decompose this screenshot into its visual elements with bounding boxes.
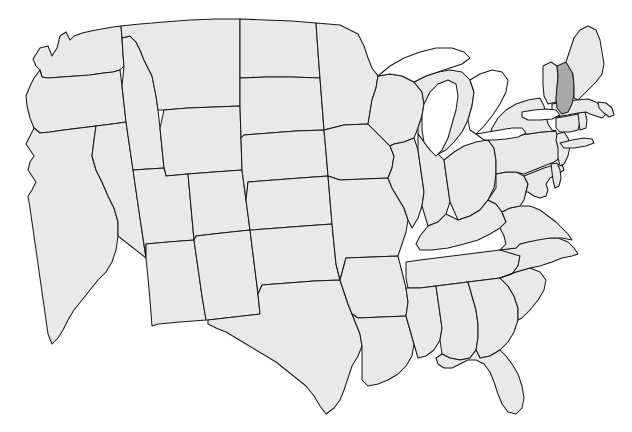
state-south-dakota[interactable] <box>240 77 324 138</box>
state-louisiana[interactable] <box>352 314 414 386</box>
state-oregon[interactable] <box>26 70 126 133</box>
state-florida[interactable] <box>436 350 524 414</box>
state-wyoming[interactable] <box>160 106 242 176</box>
map-container <box>0 0 632 432</box>
state-rhode-island[interactable] <box>578 112 587 130</box>
us-states-map[interactable] <box>0 0 632 432</box>
state-washington[interactable] <box>33 26 124 78</box>
state-new-mexico[interactable] <box>194 230 260 320</box>
state-north-dakota[interactable] <box>240 19 320 78</box>
state-minnesota[interactable] <box>316 23 378 130</box>
state-new-jersey[interactable] <box>556 132 570 166</box>
state-arkansas[interactable] <box>340 256 408 318</box>
state-kansas[interactable] <box>246 176 332 230</box>
state-colorado[interactable] <box>188 170 250 240</box>
lake-ontario <box>522 109 560 120</box>
